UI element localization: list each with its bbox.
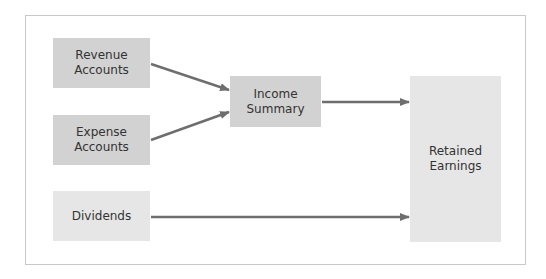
arrow-revenue-to-income xyxy=(151,64,229,90)
arrow-expense-to-income xyxy=(151,112,229,140)
arrows-layer xyxy=(0,0,546,279)
